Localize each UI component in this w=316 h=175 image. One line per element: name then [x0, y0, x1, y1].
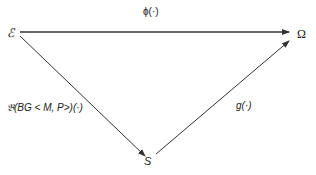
- node-source-epsilon: ℰ: [7, 27, 14, 39]
- node-target-omega: Ω: [297, 28, 306, 40]
- edge-right-arrow: [156, 41, 289, 154]
- diagram-canvas: [0, 0, 316, 175]
- edge-right-label: g(·): [236, 101, 252, 111]
- edge-left-label: 𝔅(BG < M, P>)(·): [7, 103, 83, 113]
- node-middle-s: S: [144, 156, 151, 167]
- edge-top-label: ϕ(·): [143, 7, 159, 17]
- edge-left-arrow: [20, 36, 145, 156]
